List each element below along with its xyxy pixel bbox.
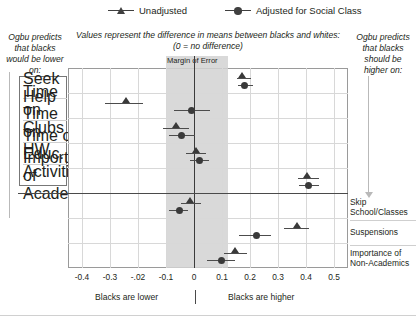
plot-area: Margin of Error (68, 68, 348, 268)
legend-label-adjusted: Adjusted for Social Class (256, 5, 362, 16)
gridline-horizontal (68, 118, 348, 119)
caption-right: Ogbu predicts that blacks should be high… (352, 32, 414, 76)
caption-center: Values represent the difference in means… (72, 30, 344, 52)
data-point-triangle (122, 97, 130, 103)
data-point-circle (241, 82, 248, 89)
chart-legend: Unadjusted Adjusted for Social Class (0, 2, 416, 22)
data-point-circle (218, 257, 225, 264)
left-category-labels: Seek HelpTime on ClubsTime on HWTime on … (19, 76, 67, 186)
footer-label-lower: Blacks are lower (95, 292, 158, 302)
data-point-circle (178, 132, 185, 139)
arrow-down-left-icon (5, 72, 14, 218)
arrow-down-right-icon (364, 76, 373, 200)
gridline-horizontal (68, 168, 348, 169)
data-point-triangle (293, 222, 301, 228)
gridline-horizontal (68, 93, 348, 94)
zero-reference-line (194, 56, 195, 268)
category-label: Skip School/Classes (350, 196, 416, 221)
right-category-labels: Skip School/ClassesSuspensionsImportance… (348, 196, 416, 268)
gridline-horizontal (68, 218, 348, 219)
data-point-triangle (192, 147, 200, 153)
legend-item-adjusted: Adjusted for Social Class (225, 5, 362, 16)
data-point-triangle (186, 197, 194, 203)
group-divider (18, 193, 348, 194)
x-axis: -0.4-0.3-.02-0.100.10.20.30.40.5 (68, 272, 348, 286)
data-point-triangle (238, 72, 246, 78)
legend-item-unadjusted: Unadjusted (108, 5, 187, 16)
data-point-triangle (172, 122, 180, 128)
category-label: Importance of Non-Academics (350, 246, 416, 271)
category-label: Suspensions (350, 221, 416, 246)
footer-label-higher: Blacks are higher (228, 292, 294, 302)
margin-of-error-label: Margin of Error (166, 56, 218, 65)
triangle-icon (108, 6, 134, 16)
circle-icon (225, 6, 251, 16)
gridline-horizontal (68, 143, 348, 144)
category-label: Importance of Academics (23, 165, 67, 187)
data-point-circle (253, 232, 260, 239)
data-point-triangle (231, 247, 239, 253)
data-point-circle (305, 182, 312, 189)
gridline-horizontal (68, 243, 348, 244)
data-point-circle (176, 207, 183, 214)
legend-label-unadjusted: Unadjusted (139, 5, 187, 16)
page-divider (0, 315, 416, 316)
x-tick-label: 0.5 (317, 272, 351, 282)
data-point-circle (196, 157, 203, 164)
data-point-triangle (303, 172, 311, 178)
footer-zero-tick (195, 290, 196, 304)
chart-screenshot: Unadjusted Adjusted for Social Class Ogb… (0, 0, 416, 322)
data-point-circle (188, 107, 195, 114)
